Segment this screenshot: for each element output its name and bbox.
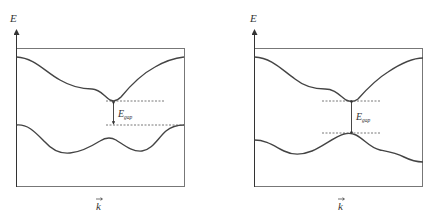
plot-frame <box>255 49 423 187</box>
energy-axis-label: E <box>9 12 17 24</box>
gap-label: Egap <box>355 111 371 123</box>
svg-text:k: k <box>96 200 102 212</box>
band-structure-diagram: E Egap k E Egap <box>0 0 435 223</box>
panel-indirect-gap: E Egap k <box>9 12 185 212</box>
momentum-axis-label: k <box>338 198 345 212</box>
valence-band-curve <box>17 125 185 153</box>
panel-direct-gap: E Egap k <box>249 12 423 212</box>
momentum-axis-label: k <box>96 198 103 212</box>
gap-endpoint-dot <box>350 100 353 103</box>
energy-axis-label: E <box>249 12 257 24</box>
gap-label: Egap <box>117 108 133 120</box>
conduction-band-curve <box>255 57 424 101</box>
plot-frame <box>17 49 185 187</box>
gap-endpoint-dot <box>350 131 353 134</box>
svg-text:k: k <box>338 200 344 212</box>
valence-band-curve <box>255 133 424 162</box>
conduction-band-curve <box>17 57 185 101</box>
